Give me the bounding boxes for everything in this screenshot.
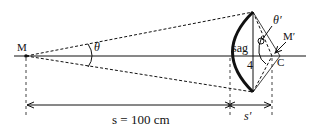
ray-top [26,12,253,56]
ray-bottom [26,56,253,92]
mirror-diagram: M θ sag 4 θ′ M′ C s = 100 cm s′ [0,0,317,140]
reflected-ray-top [253,12,272,56]
label-s-prime: s′ [244,109,252,123]
label-theta-prime: θ′ [273,13,282,27]
theta-prime-pointer [262,26,272,40]
label-half-height: 4 [247,58,253,72]
label-theta: θ [94,40,100,54]
label-m: M [17,41,27,53]
point-m [24,54,28,58]
m-prime-pointer [275,42,286,53]
label-m-prime: M′ [283,30,295,42]
label-s: s = 100 cm [112,112,170,127]
label-sag: sag [232,41,248,55]
radius-line-bottom [253,56,280,92]
label-c: C [277,56,284,68]
